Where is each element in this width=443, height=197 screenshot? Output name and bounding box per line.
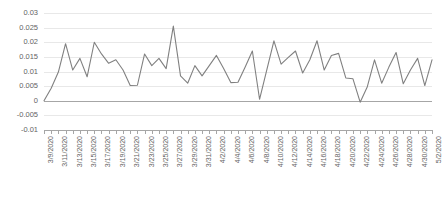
line-chart: 0.030.0250.020.0150.010.0050-0.005-0.01 … — [0, 0, 443, 197]
series-line — [0, 0, 443, 197]
